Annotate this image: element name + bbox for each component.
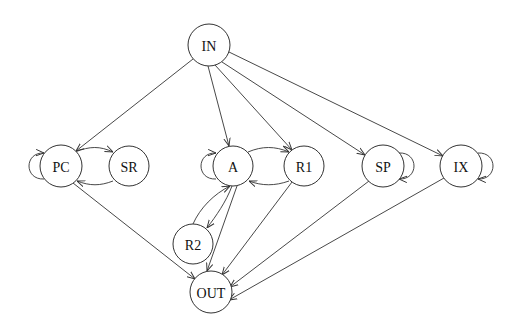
node-sp: SP	[362, 145, 404, 187]
edge-pc-sr	[75, 148, 113, 153]
edge-in-ix	[229, 52, 443, 156]
node-label: SR	[120, 160, 138, 175]
node-ix: IX	[440, 145, 482, 187]
node-label: IX	[454, 160, 469, 175]
node-label: OUT	[197, 286, 226, 301]
node-label: IN	[202, 39, 217, 54]
edge-sr-pc	[77, 181, 113, 185]
edge-sp-out	[230, 181, 369, 287]
edge-pc-out	[73, 183, 195, 279]
node-out: OUT	[190, 271, 232, 313]
node-sr: SR	[109, 146, 149, 186]
node-r2: R2	[173, 224, 213, 264]
edge-r2-a	[193, 186, 230, 224]
node-label: PC	[52, 160, 69, 175]
edge-a-r1	[248, 148, 289, 153]
state-diagram: IN PC SR A R1 SP IX R2 OUT	[0, 0, 520, 329]
edge-in-sp	[222, 62, 365, 155]
node-in: IN	[188, 24, 230, 66]
edge-r1-a	[249, 181, 289, 185]
node-label: R2	[185, 238, 201, 253]
edge-in-pc	[76, 59, 193, 151]
node-label: SP	[375, 160, 391, 175]
node-label: R1	[296, 160, 312, 175]
node-r1: R1	[284, 146, 324, 186]
edge-in-a	[208, 66, 229, 146]
node-label: A	[228, 160, 239, 175]
node-a: A	[213, 146, 253, 186]
node-pc: PC	[40, 145, 82, 187]
edge-r1-out	[222, 182, 292, 275]
edge-ix-out	[229, 178, 444, 300]
